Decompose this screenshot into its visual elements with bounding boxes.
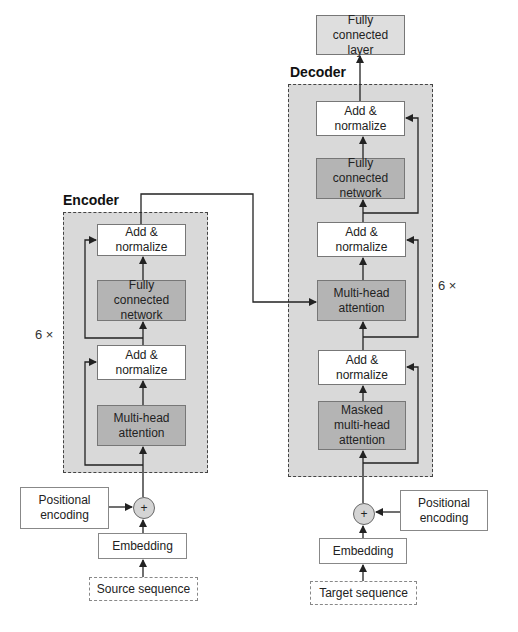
encoder-positional-encoding: Positional encoding xyxy=(20,487,109,529)
decoder-title: Decoder xyxy=(290,64,346,80)
decoder-sum-icon: + xyxy=(353,503,375,525)
encoder-embedding: Embedding xyxy=(98,533,187,559)
encoder-multi-head-attention: Multi-head attention xyxy=(97,405,186,446)
source-sequence-input: Source sequence xyxy=(89,577,198,601)
target-sequence-input: Target sequence xyxy=(310,581,417,605)
decoder-repeat-label: 6 × xyxy=(438,278,456,293)
encoder-fully-connected-network: Fully connected network xyxy=(97,280,186,321)
encoder-add-normalize-1: Add & normalize xyxy=(97,345,186,380)
decoder-multi-head-attention: Multi-head attention xyxy=(317,280,406,321)
decoder-fully-connected-network: Fully connected network xyxy=(316,158,405,199)
decoder-masked-multi-head-attention: Masked multi-head attention xyxy=(318,401,406,450)
encoder-sum-icon: + xyxy=(133,497,155,519)
decoder-embedding: Embedding xyxy=(319,538,407,564)
decoder-add-normalize-2: Add & normalize xyxy=(317,222,406,257)
decoder-add-normalize-3: Add & normalize xyxy=(316,101,405,136)
decoder-positional-encoding: Positional encoding xyxy=(400,490,488,531)
encoder-title: Encoder xyxy=(63,192,119,208)
decoder-add-normalize-1: Add & normalize xyxy=(318,350,406,385)
encoder-add-normalize-2: Add & normalize xyxy=(97,224,186,256)
encoder-repeat-label: 6 × xyxy=(35,327,53,342)
decoder-fully-connected-layer: Fully connected layer xyxy=(316,15,405,55)
